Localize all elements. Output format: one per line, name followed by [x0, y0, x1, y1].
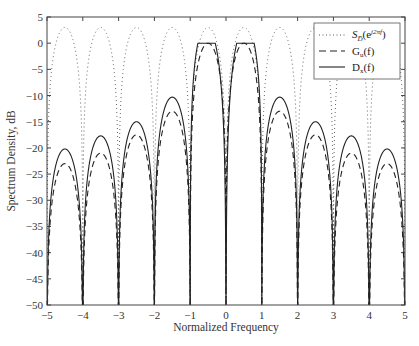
x-tick-label: 4	[366, 309, 372, 321]
x-tick-label: 5	[402, 309, 408, 321]
y-tick-label: −45	[26, 273, 44, 285]
legend-label-gu: Gu(f)	[352, 45, 375, 59]
x-tick-label: −1	[184, 309, 196, 321]
y-tick-label: −40	[26, 247, 44, 259]
y-tick-label: −30	[26, 194, 44, 206]
x-tick-label: 2	[295, 309, 301, 321]
y-tick-label: −35	[26, 220, 44, 232]
legend-label-dx: Dx(f)	[352, 61, 375, 75]
y-tick-label: 5	[38, 11, 44, 23]
y-axis-label: Spectrum Density, dB	[5, 110, 18, 211]
y-tick-label: −15	[26, 116, 44, 128]
spectrum-chart: −5−4−3−2−1012345 50−5−10−15−20−25−30−35−…	[0, 0, 419, 346]
y-tick-label: −10	[26, 90, 44, 102]
y-tick-label: 0	[38, 37, 44, 49]
x-tick-label: 3	[331, 309, 337, 321]
y-tick-label: −20	[26, 142, 44, 154]
y-tick-label: −50	[26, 299, 44, 311]
y-tick-label: −5	[31, 63, 43, 75]
x-tick-label: −3	[113, 309, 125, 321]
x-tick-label: 1	[259, 309, 265, 321]
x-tick-label: −4	[77, 309, 89, 321]
x-axis-label: Normalized Frequency	[173, 321, 279, 334]
legend: SD̅(ej2πf) Gu(f) Dx(f)	[314, 23, 400, 79]
y-tick-label: −25	[26, 168, 44, 180]
x-tick-label: 0	[223, 309, 229, 321]
x-tick-label: −2	[149, 309, 161, 321]
